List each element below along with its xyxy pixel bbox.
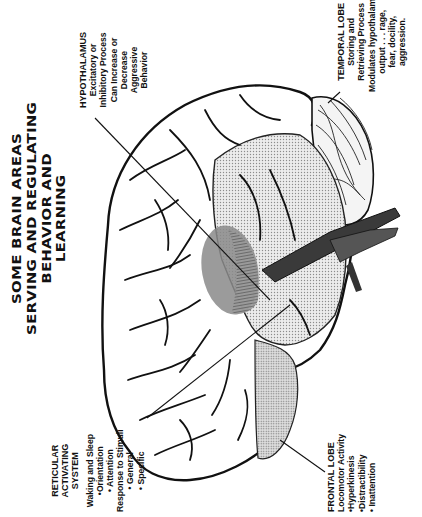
- ras-heading-line: SYSTEM: [70, 429, 80, 512]
- temporal-lobe-line: output . . . rage,: [377, 0, 387, 92]
- ras-line: Waking and Sleep: [85, 429, 95, 512]
- hypothalamus-line: Aggressive: [129, 32, 139, 108]
- hypothalamus-line: Can Increase or: [109, 32, 119, 108]
- reticular-activating-system-label: RETICULAR ACTIVATING SYSTEM Waking and S…: [50, 429, 146, 512]
- temporal-lobe-label: TEMPORAL LOBE Storing and Retrieving Pro…: [336, 0, 407, 92]
- title-line-3: BEHAVIOR AND: [40, 102, 55, 335]
- frontal-lobe-line: •Distractibility: [357, 434, 367, 512]
- hypothalamus-line: Inhibitory Process: [98, 32, 108, 108]
- title-line-1: SOME BRAIN AREAS: [10, 102, 25, 335]
- ras-line: Response to Stimuli: [115, 429, 125, 512]
- hypothalamus-line: Excitatory or: [88, 32, 98, 108]
- ras-heading-line: ACTIVATING: [60, 429, 70, 512]
- temporal-lobe-line: Modulates hypothalamic: [367, 0, 377, 92]
- temporal-lobe-line: aggression.: [397, 0, 407, 92]
- frontal-lobe-line: •Hyperkinesis: [346, 434, 356, 512]
- frontal-lobe-leader: [280, 440, 325, 472]
- hypothalamus-line: Decrease: [119, 32, 129, 108]
- ras-line: • General: [125, 429, 135, 512]
- temporal-lobe-line: Storing and: [346, 0, 356, 92]
- hypothalamus-heading: HYPOTHALAMUS: [78, 32, 88, 108]
- frontal-lobe-line: • Inattention: [367, 434, 377, 512]
- brain-diagram: SOME BRAIN AREAS SERVING AND REGULATING …: [0, 0, 422, 517]
- ras-line: • Specific: [136, 429, 146, 512]
- diagram-title: SOME BRAIN AREAS SERVING AND REGULATING …: [10, 102, 69, 335]
- title-line-2: SERVING AND REGULATING: [25, 102, 40, 335]
- temporal-lobe-line: fear, docility,: [387, 0, 397, 92]
- ras-line: •Orientation: [95, 429, 105, 512]
- frontal-lobe-heading: FRONTAL LOBE: [326, 434, 336, 512]
- hypothalamus-label: HYPOTHALAMUS Excitatory or Inhibitory Pr…: [78, 32, 149, 108]
- hypothalamus-line: Behavior: [139, 32, 149, 108]
- ras-line: • Attention: [105, 429, 115, 512]
- title-line-4: LEARNING: [54, 102, 69, 335]
- frontal-lobe-region: [255, 340, 298, 459]
- frontal-lobe-label: FRONTAL LOBE Locomotor Activity •Hyperki…: [326, 434, 377, 512]
- temporal-lobe-line: Retrieving Process: [356, 0, 366, 92]
- frontal-lobe-line: Locomotor Activity: [336, 434, 346, 512]
- ras-heading-line: RETICULAR: [50, 429, 60, 512]
- temporal-lobe-heading: TEMPORAL LOBE: [336, 0, 346, 92]
